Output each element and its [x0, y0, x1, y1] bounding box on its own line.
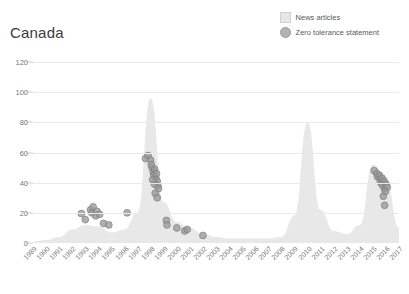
x-axis-tick-label: 2003 [205, 245, 221, 261]
scatter-point[interactable] [164, 222, 171, 229]
y-axis-tick-label: 40 [20, 178, 28, 187]
scatter-point[interactable] [173, 225, 180, 232]
gridline [33, 153, 399, 154]
circle-swatch-icon [280, 27, 291, 38]
x-axis-tick-label: 2017 [388, 245, 404, 261]
y-axis-tick-label: 20 [20, 208, 28, 217]
x-axis-tick-label: 1993 [74, 245, 90, 261]
x-axis-tick-label: 1999 [153, 245, 169, 261]
x-axis-tick-label: 1995 [100, 245, 116, 261]
x-axis-tick-label: 2001 [179, 245, 195, 261]
x-axis-labels: 1989199019911992199319941995199619971998… [33, 245, 399, 291]
gridline [33, 62, 399, 63]
x-axis-tick-label: 2015 [362, 245, 378, 261]
x-axis-tick-label: 1991 [48, 245, 64, 261]
x-axis-tick-label: 1994 [87, 245, 103, 261]
gridline [33, 122, 399, 123]
scatter-point[interactable] [380, 193, 387, 200]
x-axis-tick-label: 1998 [140, 245, 156, 261]
x-axis-tick-label: 2008 [270, 245, 286, 261]
scatter-point[interactable] [184, 226, 191, 233]
y-axis-tick-label: 100 [15, 88, 28, 97]
scatter-point[interactable] [105, 222, 112, 229]
gridline [33, 92, 399, 93]
x-axis-tick-label: 2000 [166, 245, 182, 261]
scatter-point[interactable] [148, 161, 155, 168]
chart-container: Canada News articles Zero tolerance stat… [0, 0, 409, 294]
x-axis-tick-label: 2004 [218, 245, 234, 261]
scatter-point[interactable] [82, 216, 89, 223]
x-axis-tick-label: 2016 [375, 245, 391, 261]
x-axis-tick-label: 2005 [231, 245, 247, 261]
x-axis-tick-label: 2002 [192, 245, 208, 261]
x-axis-tick-label: 1992 [61, 245, 77, 261]
plot-area: 020406080100120 [33, 62, 399, 243]
legend-item-label: Zero tolerance statement [296, 28, 379, 37]
chart-legend: News articles Zero tolerance statement [280, 12, 379, 38]
x-axis-tick-label: 1990 [35, 245, 51, 261]
x-axis-tick-label: 2009 [283, 245, 299, 261]
page-title: Canada [10, 24, 64, 41]
legend-item-news-articles[interactable]: News articles [280, 12, 379, 23]
gridline [33, 183, 399, 184]
scatter-point[interactable] [381, 202, 388, 209]
x-axis-tick-label: 2011 [310, 245, 326, 261]
scatter-point[interactable] [153, 170, 160, 177]
y-axis-tick-label: 60 [20, 148, 28, 157]
x-axis-tick-label: 2007 [257, 245, 273, 261]
x-axis-tick-label: 2013 [336, 245, 352, 261]
scatter-point[interactable] [200, 232, 207, 239]
y-axis-tick-label: 120 [15, 58, 28, 67]
legend-item-zero-tolerance-statement[interactable]: Zero tolerance statement [280, 27, 379, 38]
y-axis-tick-label: 0 [24, 239, 28, 248]
scatter-point[interactable] [154, 194, 161, 201]
legend-item-label: News articles [296, 13, 341, 22]
x-axis-tick-label: 2010 [296, 245, 312, 261]
gridline [33, 213, 399, 214]
x-axis-tick-label: 2012 [323, 245, 339, 261]
y-axis-tick-label: 80 [20, 118, 28, 127]
x-axis-tick-label: 2014 [349, 245, 365, 261]
square-swatch-icon [280, 12, 291, 23]
x-axis-tick-label: 1996 [113, 245, 129, 261]
x-axis-tick-label: 2006 [244, 245, 260, 261]
